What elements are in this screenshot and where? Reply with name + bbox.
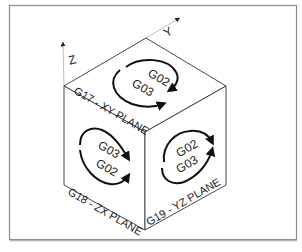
plane-selection-cube-diagram: Z Y X G02 G03 G17 - XY PLANE G03 G02 G18… xyxy=(0,0,302,252)
